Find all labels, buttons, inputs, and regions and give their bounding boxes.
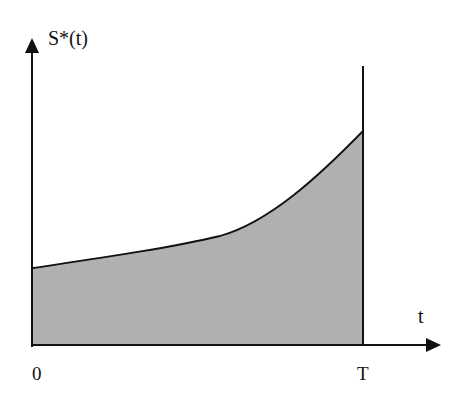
y-axis-arrow-icon	[25, 38, 39, 53]
t-end-label: T	[357, 364, 369, 383]
x-axis-arrow-icon	[426, 338, 441, 352]
diagram-svg	[0, 0, 467, 395]
y-axis-label: S*(t)	[48, 28, 88, 48]
x-axis-label: t	[418, 306, 424, 326]
origin-label: 0	[32, 364, 42, 383]
diagram-canvas: S*(t) t 0 T	[0, 0, 467, 395]
shaded-area	[33, 131, 363, 345]
